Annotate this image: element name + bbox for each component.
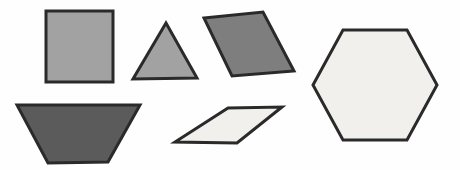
trapezoid-shape bbox=[17, 105, 140, 163]
light-parallelogram-shape bbox=[175, 107, 282, 143]
square-shape bbox=[46, 11, 113, 82]
dark-parallelogram-shape bbox=[204, 12, 294, 76]
pattern-blocks-figure bbox=[0, 0, 460, 170]
hexagon-shape bbox=[313, 30, 437, 140]
pattern-blocks-canvas bbox=[0, 0, 460, 170]
triangle-shape bbox=[133, 23, 197, 79]
